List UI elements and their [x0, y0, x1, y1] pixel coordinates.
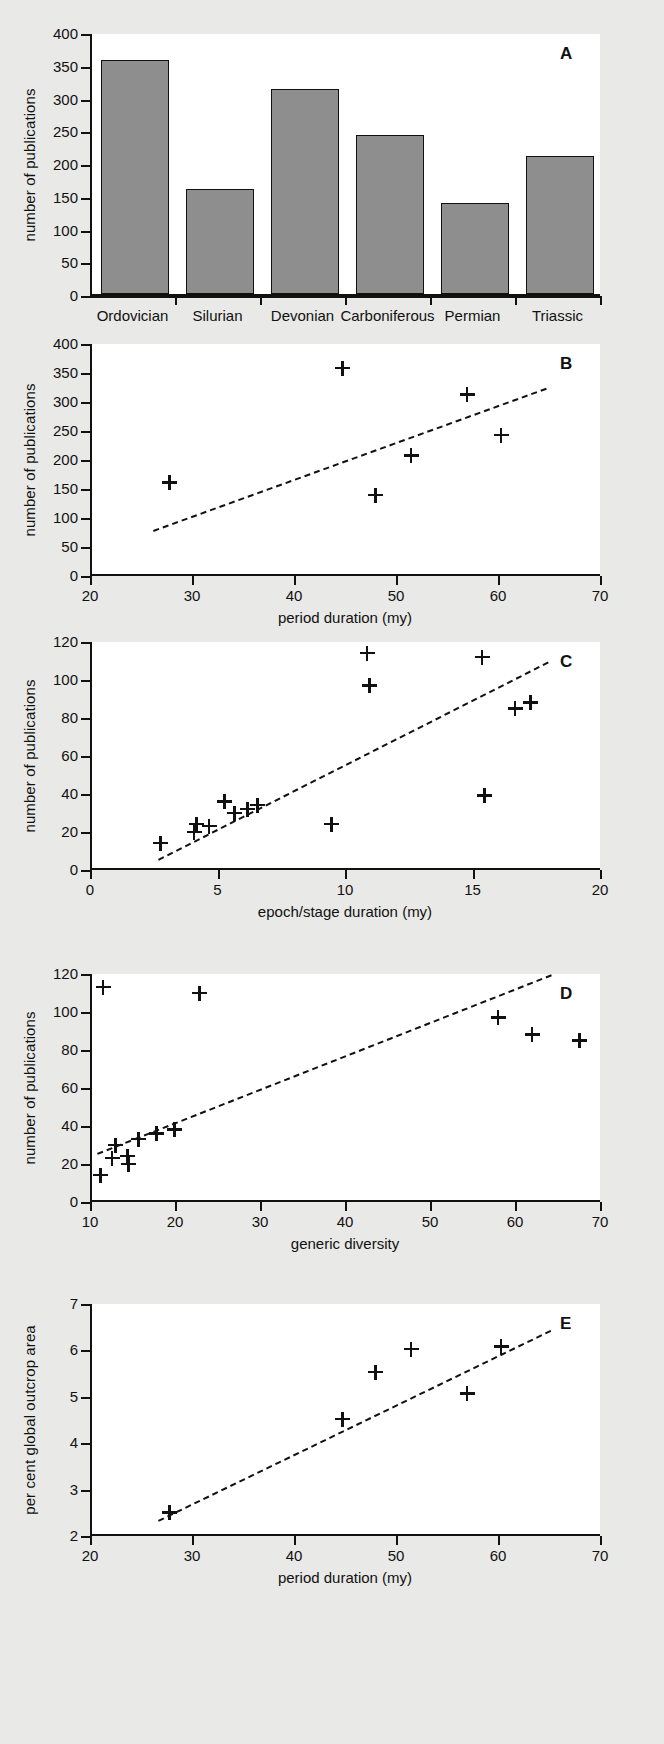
- x-tick-d-3: [345, 1202, 347, 1211]
- plot-area-b: [90, 344, 600, 576]
- data-point-10: [362, 678, 377, 693]
- x-tick-label-d-1: 20: [150, 1213, 200, 1230]
- x-tick-label-b-0: 20: [65, 587, 115, 604]
- x-tick-label-e-2: 40: [269, 1547, 319, 1564]
- y-tick-label-d-6: 120: [24, 965, 78, 982]
- trend-line-c: [158, 661, 549, 860]
- y-tick-b-5: [81, 431, 90, 433]
- x-tick-label-c-4: 20: [575, 881, 625, 898]
- x-tick-label-c-1: 5: [193, 881, 243, 898]
- panel-c: C020406080100120number of publications05…: [18, 628, 646, 930]
- x-tick-label-e-5: 70: [575, 1547, 625, 1564]
- x-tick-label-e-1: 30: [167, 1547, 217, 1564]
- x-tick-label-c-0: 0: [65, 881, 115, 898]
- x-tick-e-2: [294, 1536, 296, 1545]
- y-tick-label-a-1: 50: [24, 254, 78, 271]
- x-axis-label-b: period duration (my): [90, 609, 600, 626]
- panel-letter-b: B: [560, 354, 572, 374]
- y-tick-label-b-1: 50: [24, 538, 78, 555]
- data-point-13: [508, 701, 523, 716]
- y-tick-label-e-0: 2: [24, 1527, 78, 1544]
- y-tick-c-1: [81, 832, 90, 834]
- panel-b: B050100150200250300350400number of publi…: [18, 330, 646, 636]
- trend-line-b: [153, 387, 546, 531]
- panel-letter-a: A: [560, 44, 572, 64]
- y-tick-e-0: [81, 1536, 90, 1538]
- y-tick-b-2: [81, 518, 90, 520]
- panel-e: E234567per cent global outcrop area20304…: [18, 1290, 646, 1596]
- x-tick-label-b-3: 50: [371, 587, 421, 604]
- x-tick-label-b-2: 40: [269, 587, 319, 604]
- data-point-2: [368, 488, 383, 503]
- x-tick-b-1: [192, 576, 194, 585]
- y-tick-c-3: [81, 756, 90, 758]
- x-tick-d-2: [260, 1202, 262, 1211]
- x-tick-c-3: [473, 870, 475, 879]
- data-point-5: [121, 1157, 136, 1172]
- y-tick-d-0: [81, 1202, 90, 1204]
- y-axis-label-a: number of publications: [21, 88, 38, 241]
- panel-letter-d: D: [560, 984, 572, 1004]
- x-tick-label-b-5: 70: [575, 587, 625, 604]
- data-point-11: [475, 650, 490, 665]
- y-tick-e-1: [81, 1490, 90, 1492]
- data-point-14: [523, 695, 538, 710]
- y-tick-c-5: [81, 680, 90, 682]
- trend-line-e: [158, 1330, 552, 1522]
- x-tick-c-0: [90, 870, 92, 879]
- y-tick-label-b-8: 400: [24, 335, 78, 352]
- data-point-9: [192, 986, 207, 1001]
- x-tick-label-e-3: 50: [371, 1547, 421, 1564]
- data-point-3: [404, 1342, 419, 1357]
- data-point-12: [477, 788, 492, 803]
- x-tick-label-d-0: 10: [65, 1213, 115, 1230]
- data-point-11: [525, 1027, 540, 1042]
- y-tick-b-7: [81, 373, 90, 375]
- y-tick-d-6: [81, 974, 90, 976]
- y-tick-c-2: [81, 794, 90, 796]
- y-tick-c-0: [81, 870, 90, 872]
- x-tick-b-5: [600, 576, 602, 585]
- y-tick-b-6: [81, 402, 90, 404]
- y-tick-d-5: [81, 1012, 90, 1014]
- x-tick-c-2: [345, 870, 347, 879]
- x-tick-label-d-3: 40: [320, 1213, 370, 1230]
- panel-a: A050100150200250300350400number of publi…: [18, 18, 646, 322]
- x-tick-label-d-5: 60: [490, 1213, 540, 1230]
- category-label-5: Triassic: [501, 307, 614, 324]
- y-tick-b-0: [81, 576, 90, 578]
- bar-0: [101, 60, 169, 294]
- plot-area-c: [90, 642, 600, 870]
- data-point-2: [368, 1365, 383, 1380]
- y-tick-e-4: [81, 1350, 90, 1352]
- x-tick-b-3: [396, 576, 398, 585]
- y-tick-label-b-7: 350: [24, 364, 78, 381]
- panel-letter-e: E: [560, 1314, 571, 1334]
- y-tick-a-1: [81, 263, 90, 265]
- data-point-1: [96, 980, 111, 995]
- y-tick-label-a-7: 350: [24, 58, 78, 75]
- data-point-0: [162, 475, 177, 490]
- panel-d: D020406080100120number of publications10…: [18, 960, 646, 1262]
- trend-line-d: [97, 974, 552, 1154]
- bar-1: [186, 189, 254, 294]
- y-tick-e-3: [81, 1397, 90, 1399]
- x-axis-label-d: generic diversity: [90, 1235, 600, 1252]
- data-point-1: [335, 1412, 350, 1427]
- x-tick-b-4: [498, 576, 500, 585]
- bar-5: [526, 156, 594, 294]
- bar-2: [271, 89, 339, 294]
- y-tick-label-e-5: 7: [24, 1295, 78, 1312]
- x-tick-label-d-2: 30: [235, 1213, 285, 1230]
- y-tick-e-5: [81, 1304, 90, 1306]
- y-tick-label-a-8: 400: [24, 25, 78, 42]
- y-tick-d-3: [81, 1088, 90, 1090]
- data-point-9: [360, 646, 375, 661]
- y-tick-d-4: [81, 1050, 90, 1052]
- x-tick-c-4: [600, 870, 602, 879]
- y-tick-a-3: [81, 198, 90, 200]
- x-tick-label-b-1: 30: [167, 587, 217, 604]
- y-tick-d-1: [81, 1164, 90, 1166]
- y-axis-label-e: per cent global outcrop area: [21, 1325, 38, 1515]
- x-tick-d-6: [600, 1202, 602, 1211]
